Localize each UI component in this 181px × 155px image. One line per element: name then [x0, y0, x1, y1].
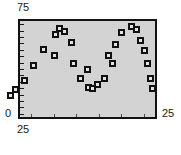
- y-axis-tick: [20, 43, 24, 44]
- y-axis-tick: [20, 50, 24, 51]
- data-point: [30, 62, 37, 69]
- y-axis-max-label: 75: [17, 2, 29, 13]
- x-axis-tick: [54, 114, 55, 117]
- x-axis-max-label: 25: [162, 108, 174, 119]
- y-axis-tick: [20, 95, 24, 96]
- data-point: [133, 26, 140, 33]
- data-point: [61, 28, 68, 35]
- data-point: [70, 60, 77, 67]
- data-point: [21, 77, 28, 84]
- data-point: [77, 75, 84, 82]
- x-axis-tick: [99, 114, 100, 117]
- data-point: [112, 41, 119, 48]
- y-axis-tick: [20, 114, 24, 115]
- y-axis-tick: [20, 31, 24, 32]
- x-axis-tick: [31, 114, 32, 117]
- x-axis-tick: [144, 114, 145, 117]
- y-axis-min-label: 0: [5, 108, 11, 119]
- scatter-chart: 75 0 25 25: [0, 0, 181, 155]
- data-point: [84, 66, 91, 73]
- plot-area: [18, 19, 157, 119]
- y-axis-tick: [20, 88, 24, 89]
- data-point: [147, 75, 154, 82]
- x-axis-tick: [121, 114, 122, 117]
- y-axis-tick: [20, 24, 24, 25]
- y-axis-tick: [20, 63, 24, 64]
- data-point: [149, 85, 156, 92]
- y-axis-tick: [20, 101, 24, 102]
- data-point: [94, 81, 101, 88]
- data-point: [109, 60, 116, 67]
- data-point: [51, 52, 58, 59]
- y-axis-tick: [20, 69, 24, 70]
- data-point: [137, 37, 144, 44]
- data-point: [105, 52, 112, 59]
- data-point: [101, 75, 108, 82]
- data-point: [118, 29, 125, 36]
- data-point: [7, 92, 14, 99]
- y-axis-tick: [20, 56, 24, 57]
- data-point: [144, 60, 151, 67]
- data-point: [141, 47, 148, 54]
- plot-inner: [20, 21, 155, 117]
- x-axis-min-label: 25: [17, 124, 29, 135]
- y-axis-tick: [20, 37, 24, 38]
- data-point: [40, 46, 47, 53]
- data-point: [68, 39, 75, 46]
- x-axis-tick: [76, 114, 77, 117]
- y-axis-tick: [20, 107, 24, 108]
